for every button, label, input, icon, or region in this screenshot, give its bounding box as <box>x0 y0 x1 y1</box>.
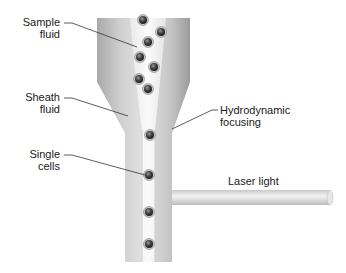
label-sheath-fluid: Sheath fluid <box>10 91 60 115</box>
laser-beam <box>170 190 333 205</box>
cell-nucleus <box>144 85 152 93</box>
cell-nucleus <box>139 16 147 24</box>
label-single-cells: Single cells <box>10 148 60 172</box>
cell-nucleus <box>145 171 153 179</box>
cell-nucleus <box>150 63 158 71</box>
cell-nucleus <box>145 208 153 216</box>
cell-nucleus <box>135 75 143 83</box>
cell-nucleus <box>144 38 152 46</box>
cell-nucleus <box>136 53 144 61</box>
cell-nucleus <box>146 131 154 139</box>
label-hydrodynamic-focusing: Hydrodynamic focusing <box>220 104 290 128</box>
cell-nucleus <box>145 240 153 248</box>
flow-cytometry-diagram <box>0 0 346 273</box>
label-sample-fluid: Sample fluid <box>10 16 60 40</box>
label-laser-light: Laser light <box>228 175 279 187</box>
cell-nucleus <box>157 28 165 36</box>
